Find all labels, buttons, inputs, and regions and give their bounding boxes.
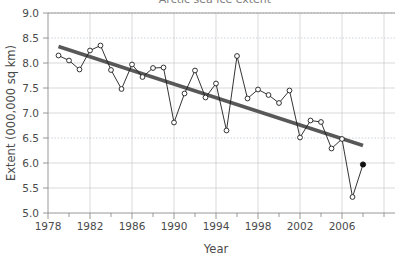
chart-figure: Arctic sea ice extent — [0, 0, 407, 261]
data-point-2000 — [277, 101, 282, 106]
data-point-1997 — [245, 96, 250, 101]
y-tick-marks — [43, 13, 48, 213]
x-tick-labels: 1978 1982 1986 1990 1994 1998 2002 2006 — [35, 220, 356, 232]
trend-line — [59, 47, 364, 146]
y-tick-label-8.5: 8.5 — [22, 32, 39, 44]
data-point-1986 — [130, 62, 135, 67]
data-series-layer — [59, 46, 364, 198]
chart-title: Arctic sea ice extent — [159, 0, 272, 6]
y-tick-label-7.0: 7.0 — [22, 107, 39, 119]
data-point-1982 — [88, 48, 93, 53]
x-tick-label-1998: 1998 — [245, 220, 272, 232]
y-axis-title: Extent (000,000 sq km) — [4, 45, 18, 181]
data-point-1984 — [109, 68, 114, 73]
x-tick-label-1990: 1990 — [161, 220, 188, 232]
data-point-2005 — [329, 146, 334, 151]
data-point-1999 — [266, 93, 271, 98]
x-tick-label-2006: 2006 — [329, 220, 356, 232]
data-point-2007 — [350, 195, 355, 200]
chart-title-group: Arctic sea ice extent — [159, 0, 272, 6]
x-tick-label-1978: 1978 — [35, 220, 62, 232]
y-tick-label-5.0: 5.0 — [22, 207, 39, 219]
data-point-1989 — [161, 65, 166, 70]
data-point-1992 — [193, 68, 198, 73]
data-point-1991 — [182, 91, 187, 96]
data-point-1994 — [214, 81, 219, 86]
data-point-2001 — [287, 88, 292, 93]
x-tick-label-1994: 1994 — [203, 220, 230, 232]
data-point-1996 — [235, 54, 240, 59]
data-point-1983 — [98, 43, 103, 48]
data-point-1993 — [203, 95, 208, 100]
y-tick-labels: 9.0 8.5 8.0 7.5 7.0 6.5 6.0 5.5 5.0 — [22, 7, 39, 219]
series-polyline — [59, 46, 364, 198]
y-tick-label-8.0: 8.0 — [22, 57, 39, 69]
x-tick-label-2002: 2002 — [287, 220, 314, 232]
y-tick-label-7.5: 7.5 — [22, 82, 39, 94]
y-tick-label-5.5: 5.5 — [22, 182, 39, 194]
data-point-2002 — [298, 135, 303, 140]
x-tick-label-1982: 1982 — [77, 220, 104, 232]
y-tick-label-6.5: 6.5 — [22, 132, 39, 144]
data-point-2004 — [319, 120, 324, 125]
data-point-2006 — [340, 137, 345, 142]
y-tick-label-9.0: 9.0 — [22, 7, 39, 19]
data-point-1987 — [140, 75, 145, 80]
data-point-1979 — [56, 53, 61, 58]
data-point-2008-highlighted — [360, 162, 365, 167]
trend-line-layer — [59, 47, 364, 146]
chart-svg: Arctic sea ice extent — [0, 0, 407, 261]
x-tick-marks — [48, 213, 384, 219]
data-point-1980 — [67, 58, 72, 63]
data-point-1990 — [172, 120, 177, 125]
y-tick-label-6.0: 6.0 — [22, 157, 39, 169]
data-point-2003 — [308, 118, 313, 123]
x-tick-label-1986: 1986 — [119, 220, 146, 232]
data-marker-layer — [56, 43, 366, 199]
x-axis-title: Year — [203, 242, 229, 256]
data-point-1988 — [151, 66, 156, 71]
data-point-1981 — [77, 67, 82, 72]
data-point-1998 — [256, 87, 261, 92]
data-point-1985 — [119, 87, 124, 92]
data-point-1995 — [224, 128, 229, 133]
